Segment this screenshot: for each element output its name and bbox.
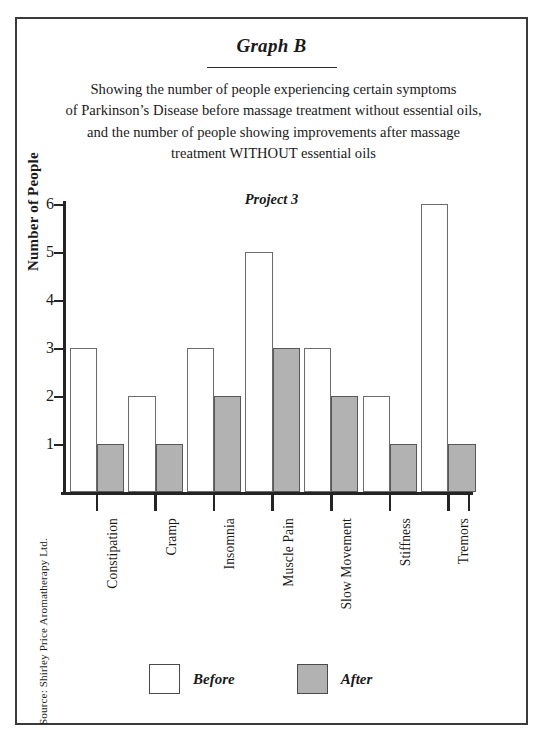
bar-group: Insomnia bbox=[180, 204, 239, 492]
x-axis-category-label: Constipation bbox=[105, 518, 121, 589]
bar-after[interactable] bbox=[273, 348, 300, 492]
y-axis-tick bbox=[54, 396, 63, 398]
bar-before[interactable] bbox=[187, 348, 214, 492]
bar-after[interactable] bbox=[331, 396, 358, 492]
y-axis-tick bbox=[54, 252, 63, 254]
page-frame: Graph B Showing the number of people exp… bbox=[15, 17, 528, 725]
y-axis-tick bbox=[54, 444, 63, 446]
bar-before[interactable] bbox=[70, 348, 97, 492]
bar-group: Muscle Pain bbox=[239, 204, 298, 492]
x-axis-category-label: Stiffness bbox=[398, 518, 414, 566]
page-title: Graph B bbox=[17, 35, 526, 57]
x-axis-category-label: Cramp bbox=[164, 518, 180, 556]
bar-before[interactable] bbox=[304, 348, 331, 492]
bar-group: Stiffness bbox=[356, 204, 415, 492]
y-axis-tick-label: 5 bbox=[46, 244, 54, 260]
bar-after[interactable] bbox=[156, 444, 183, 492]
y-axis-tick bbox=[54, 300, 63, 302]
chart-plot-area: 123456 ConstipationCrampInsomniaMuscle P… bbox=[63, 204, 473, 492]
legend-swatch-after bbox=[297, 664, 328, 694]
y-axis-tick bbox=[54, 348, 63, 350]
legend-label-after: After bbox=[341, 671, 373, 688]
x-axis-tick bbox=[154, 492, 157, 511]
title-divider bbox=[207, 67, 337, 68]
y-axis-tick-label: 2 bbox=[46, 388, 54, 404]
x-axis-category-label: Slow Movement bbox=[339, 518, 355, 610]
legend-label-before: Before bbox=[193, 671, 235, 688]
y-axis-tick-label: 1 bbox=[46, 436, 54, 452]
bar-group: Slow Movement bbox=[297, 204, 356, 492]
bar-after[interactable] bbox=[448, 444, 475, 492]
bar-group: Constipation bbox=[63, 204, 122, 492]
legend-before[interactable]: Before bbox=[149, 664, 235, 694]
x-axis-tick bbox=[96, 492, 99, 511]
subtitle-line-4: treatment WITHOUT essential oils bbox=[43, 143, 504, 164]
bar-before[interactable] bbox=[245, 252, 272, 492]
subtitle-line-1: Showing the number of people experiencin… bbox=[43, 79, 504, 100]
legend-after[interactable]: After bbox=[297, 664, 373, 694]
page-subtitle: Showing the number of people experiencin… bbox=[43, 79, 504, 164]
subtitle-line-2: of Parkinson’s Disease before massage tr… bbox=[43, 100, 504, 121]
bar-group: Cramp bbox=[122, 204, 181, 492]
chart-legend: BeforeAfter bbox=[149, 664, 372, 694]
source-note: Source: Shirley Price Aromatherapy Ltd. bbox=[37, 538, 49, 725]
bar-after[interactable] bbox=[214, 396, 241, 492]
y-axis-tick-label: 6 bbox=[46, 196, 54, 212]
x-axis-tick bbox=[468, 492, 471, 511]
bar-before[interactable] bbox=[421, 204, 448, 492]
y-axis-title: Number of People bbox=[25, 152, 42, 271]
y-axis-tick-label: 4 bbox=[46, 292, 54, 308]
subtitle-line-3: and the number of people showing improve… bbox=[43, 122, 504, 143]
y-axis-tick-label: 3 bbox=[46, 340, 54, 356]
bar-after[interactable] bbox=[97, 444, 124, 492]
x-axis-category-label: Muscle Pain bbox=[281, 518, 297, 587]
x-axis-tick bbox=[330, 492, 333, 511]
x-axis-category-label: Tremors bbox=[456, 518, 472, 564]
bar-group: Tremors bbox=[414, 204, 473, 492]
x-axis-tick bbox=[447, 492, 450, 511]
x-axis-tick bbox=[389, 492, 392, 511]
x-axis-category-label: Insomnia bbox=[222, 518, 238, 569]
bar-before[interactable] bbox=[363, 396, 390, 492]
x-axis-line bbox=[61, 492, 473, 495]
x-axis-tick bbox=[271, 492, 274, 511]
y-axis-tick bbox=[54, 204, 63, 206]
bar-after[interactable] bbox=[390, 444, 417, 492]
bar-before[interactable] bbox=[128, 396, 155, 492]
legend-swatch-before bbox=[149, 664, 180, 694]
x-axis-tick bbox=[213, 492, 216, 511]
